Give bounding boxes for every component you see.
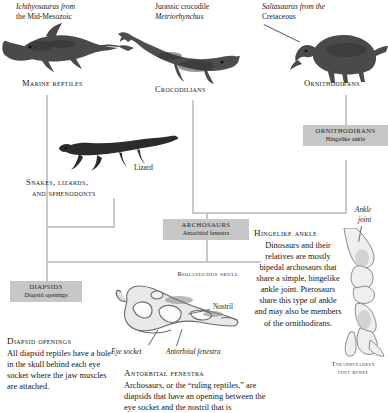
connector-snakes-lizards — [113, 198, 115, 228]
diapsid-openings-body: All diapsid reptiles have a hole in the … — [7, 349, 111, 391]
diapsid-openings-heading: Diapsid openings — [7, 336, 117, 348]
illustration-ichthyosaurus — [0, 22, 120, 76]
caption-ichthyosaurus-line2: the Mid-Mesozoic — [16, 12, 72, 22]
box-diapsids-trait: Diapsid openings — [16, 291, 76, 299]
hingelike-ankle-body: Dinosaurs and their relatives are mostly… — [255, 241, 342, 328]
node-snakes-lizards-line1: Snakes, lizards, — [26, 177, 88, 187]
ankle-joint-label-line1: Ankle — [355, 206, 371, 215]
box-ornithodirans[interactable]: ORNITHODIRANS Hingelike ankle — [303, 125, 388, 146]
box-ornithodirans-trait: Hingelike ankle — [309, 135, 382, 143]
foot-bones-line1: Tyrannosaurus — [331, 360, 374, 367]
caption-metriorhynchus-line2: Metriorhynchus — [155, 12, 203, 22]
connector-diapsid-cross — [46, 261, 261, 263]
caption-saltasaurus-genus: Saltasaurus from the — [262, 2, 325, 11]
connector-crocodilians — [192, 100, 194, 214]
text-block-hingelike-ankle: Hingelike ankle Dinosaurs and their rela… — [254, 228, 342, 329]
caption-saltasaurus-line2: Cretaceous — [262, 12, 296, 22]
connector-ornithodiran-upper — [345, 95, 347, 125]
connector-ornithodiran-lower — [345, 160, 347, 214]
skull-label-antorbital-fenestra: Antorbital fenestra — [166, 348, 221, 357]
caption-saltasaurus-line1: Saltasaurus from the — [262, 2, 325, 12]
illustration-saltasaurus — [288, 26, 388, 84]
antorbital-fenestra-body: Archosaurs, or the “ruling reptiles,” ar… — [124, 381, 265, 412]
node-crocodilians: Crocodilians — [155, 84, 206, 94]
box-archosaurs-title: ARCHOSAURS — [169, 221, 243, 229]
node-snakes-lizards-line2: and sphenodonts — [32, 188, 96, 198]
connector-snakes-cross — [46, 226, 115, 228]
box-archosaurs-trait: Antorbital fenestra — [169, 229, 243, 237]
skull-label-nostril: Nostril — [213, 303, 233, 312]
node-marine-reptiles: Marine reptiles — [22, 78, 83, 88]
connector-archosaur-cross — [192, 212, 347, 214]
caption-ichthyosaurus-line1: Ichthyosaurus from — [16, 2, 75, 12]
illustration-lizard — [57, 128, 179, 172]
foot-bones-line2: foot bones — [338, 368, 368, 375]
caption-metriorhynchus-line1: Jurassic crocodile — [155, 2, 209, 12]
box-diapsids-title: DIAPSIDS — [16, 283, 76, 291]
hingelike-ankle-heading: Hingelike ankle — [254, 228, 342, 240]
text-block-antorbital-fenestra: Antorbital fenestra Archosaurs, or the “… — [124, 368, 272, 413]
illustration-metriorhynchus — [118, 24, 242, 84]
box-diapsids[interactable]: DIAPSIDS Diapsid openings — [10, 281, 82, 302]
box-archosaurs[interactable]: ARCHOSAURS Antorbital fenestra — [163, 219, 249, 240]
ankle-joint-label-line2: joint — [358, 216, 371, 225]
antorbital-fenestra-heading: Antorbital fenestra — [124, 368, 272, 380]
foot-bones-label: Tyrannosaurus foot bones — [318, 360, 388, 376]
connector-archosaur-spine — [206, 239, 208, 263]
box-ornithodirans-title: ORNITHODIRANS — [309, 127, 382, 135]
text-block-diapsid-openings: Diapsid openings All diapsid reptiles ha… — [7, 336, 117, 392]
